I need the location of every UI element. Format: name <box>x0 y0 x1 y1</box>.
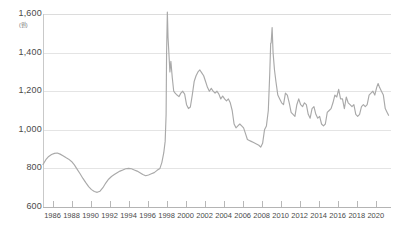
line-series-exchange-rate <box>0 0 397 241</box>
chart-container: ———— ———— 6008001,0001,2001,4001,600 (원)… <box>0 0 397 241</box>
series-polyline <box>43 12 389 192</box>
